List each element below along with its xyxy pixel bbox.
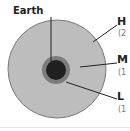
earth-core	[46, 60, 66, 80]
medium-zone-sublabel: (1	[118, 68, 126, 77]
high-zone-label: H	[117, 15, 126, 28]
bottom-divider	[0, 127, 130, 128]
diagram-graphic	[0, 0, 130, 131]
earth-orbit-diagram: Earth H (2 M (1 L (1	[0, 0, 130, 131]
earth-label: Earth	[13, 5, 43, 16]
medium-zone-label: M	[117, 53, 128, 66]
low-zone-label: L	[117, 90, 124, 103]
high-leader-line	[93, 25, 117, 42]
high-zone-sublabel: (2	[118, 29, 126, 38]
low-zone-sublabel: (1	[118, 105, 126, 114]
